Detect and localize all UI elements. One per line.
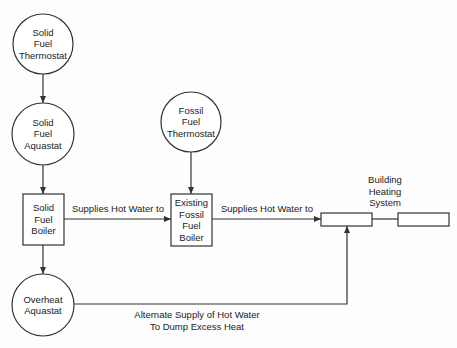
node-label-line: Boiler: [9, 225, 79, 237]
node-label-line: Thermostat: [8, 50, 78, 62]
edge-label-line-2: To Dump Excess Heat: [127, 321, 267, 333]
edge-label-text: Supplies Hot Water to: [70, 203, 166, 215]
node-label-line: Solid: [9, 202, 79, 214]
edge-label-boiler-to-fossil-boiler: Supplies Hot Water to: [70, 203, 166, 215]
node-label-line: Aquastat: [8, 140, 78, 152]
node-label-line: Solid: [8, 27, 78, 39]
edge-label-text: Supplies Hot Water to: [218, 203, 316, 215]
node-label-line: Fuel: [8, 38, 78, 50]
node-label-line: Fuel: [9, 214, 79, 226]
group-label-line-2: Heating: [355, 186, 415, 198]
edge-label-overheat-dump: Alternate Supply of Hot Water To Dump Ex…: [127, 309, 267, 332]
node-label-line: Fuel: [156, 116, 226, 128]
node-label-line: Boiler: [157, 232, 227, 244]
group-label-line-1: Building: [355, 174, 415, 186]
node-label-solid-fuel-boiler: SolidFuelBoiler: [9, 202, 79, 237]
node-label-line: Fuel: [8, 128, 78, 140]
node-label-line: Existing: [157, 197, 227, 209]
node-building-heating-unit-1: [321, 213, 372, 226]
edge-label-line-1: Alternate Supply of Hot Water: [127, 309, 267, 321]
node-label-line: Fossil: [156, 105, 226, 117]
node-label-fossil-fuel-thermostat: FossilFuelThermostat: [156, 105, 226, 140]
node-label-line: Solid: [8, 117, 78, 129]
node-label-line: Overheat: [8, 294, 78, 306]
node-label-solid-fuel-aquastat: SolidFuelAquastat: [8, 117, 78, 152]
node-label-line: Fossil: [157, 209, 227, 221]
node-label-solid-fuel-thermostat: SolidFuelThermostat: [8, 27, 78, 62]
node-label-overheat-aquastat: OverheatAquastat: [8, 294, 78, 317]
heating-system-diagram: SolidFuelThermostatSolidFuelAquastatSoli…: [0, 0, 457, 348]
edge-label-fossil-boiler-to-building: Supplies Hot Water to: [218, 203, 316, 215]
node-label-line: Thermostat: [156, 128, 226, 140]
node-building-heating-unit-2: [398, 213, 449, 226]
node-label-existing-fossil-fuel-boiler: ExistingFossilFuelBoiler: [157, 197, 227, 243]
node-label-line: Fuel: [157, 220, 227, 232]
node-label-line: Aquastat: [8, 305, 78, 317]
group-label-line-3: System: [355, 197, 415, 209]
building-heating-system-label: Building Heating System: [355, 174, 415, 209]
